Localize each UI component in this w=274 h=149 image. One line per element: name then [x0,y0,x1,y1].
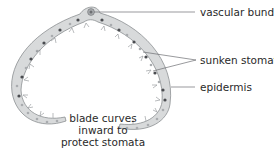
label-epidermis: epidermis [200,81,252,93]
label-sunken-stomata: sunken stomata [200,54,274,66]
caption-line-2: inward to [48,124,158,136]
vascular-bundle-icon [88,9,95,16]
label-vascular-bundle: vascular bundle [200,6,274,18]
caption-line-1: blade curves [48,112,158,124]
leaf-diagram: vascular bundle sunken stomata epidermis… [0,0,274,149]
caption-line-3: protect stomata [48,136,158,148]
